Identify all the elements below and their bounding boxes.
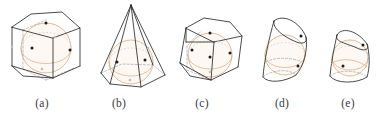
caption-a: (a) <box>22 97 62 109</box>
tangent-point <box>209 71 212 74</box>
frustum-e-bottom-arc-front <box>330 76 367 82</box>
figure-c-tilted-prism <box>172 0 248 96</box>
tangent-point <box>300 35 303 38</box>
figure-panel-row: (a) (b) (c) (d) (e) <box>0 0 385 126</box>
tangent-point <box>229 52 232 55</box>
figure-d-oblique-cone <box>252 0 322 96</box>
tangent-point <box>209 56 212 59</box>
tangent-point <box>45 22 48 25</box>
figure-b-hexagonal-pyramid <box>92 0 170 96</box>
tangent-point <box>116 61 119 64</box>
tangent-point <box>217 40 220 43</box>
tangent-point <box>144 59 147 62</box>
caption-e: (e) <box>328 97 368 109</box>
tangent-point <box>129 79 132 82</box>
figure-a-pentagonal-prism <box>8 0 88 96</box>
tangent-point <box>362 44 365 47</box>
caption-c: (c) <box>182 97 222 109</box>
tangent-point <box>147 47 150 50</box>
caption-b: (b) <box>99 97 139 109</box>
tangent-point <box>11 46 14 49</box>
tangent-point <box>209 32 212 35</box>
cone-d-bottom-arc <box>263 75 296 81</box>
tangent-point <box>41 68 44 71</box>
tangent-point <box>297 65 300 68</box>
caption-d: (d) <box>262 97 302 109</box>
tangent-point <box>191 49 194 52</box>
figure-e-oblique-frustum <box>320 0 382 96</box>
tangent-point <box>69 49 72 52</box>
tangent-point <box>54 36 57 39</box>
tangent-point <box>31 47 34 50</box>
tangent-point <box>342 65 345 68</box>
caption-row: (a) (b) (c) (d) (e) <box>0 97 385 119</box>
